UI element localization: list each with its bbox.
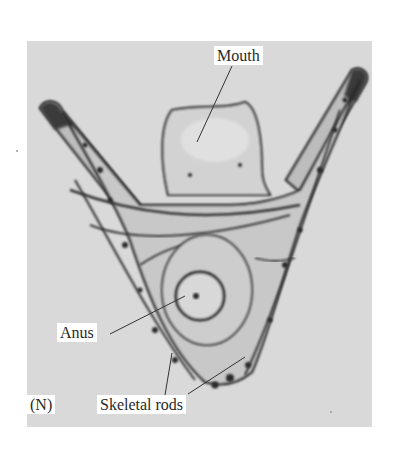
label-anus: Anus <box>57 323 97 342</box>
scan-artifact <box>330 411 332 413</box>
micrograph-panel <box>27 41 372 427</box>
larva-specimen <box>27 41 372 427</box>
mouth-region <box>181 118 249 162</box>
label-mouth: Mouth <box>214 46 263 65</box>
larva-figure: Mouth Anus Skeletal rods (N) <box>0 0 395 458</box>
anus-opening <box>176 272 224 320</box>
scan-artifact <box>16 150 18 152</box>
label-skeletal-rods: Skeletal rods <box>97 395 186 414</box>
panel-identifier: (N) <box>27 395 55 414</box>
